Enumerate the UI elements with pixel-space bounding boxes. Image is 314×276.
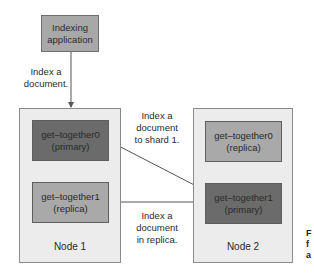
index-in-replica-label: Index a document in replica. [122,210,192,246]
node2-shard0-replica: get–together0 (replica) [205,121,282,162]
node1-shard0-primary: get–together0 (primary) [32,120,109,161]
arrow-primary0-to-primary1 [109,141,204,190]
shard-role: (primary) [225,204,263,216]
label-line: document [136,122,178,134]
indexing-application-box: Indexing application [41,15,99,52]
caption-line: f [306,239,314,250]
label-line: Index a [141,210,172,222]
node-1-label: Node 1 [20,241,120,252]
label-line: document [136,222,178,234]
node2-shard1-primary: get–together1 (primary) [205,183,282,224]
shard-role: (replica) [53,203,87,215]
shard-name: get–together0 [41,129,100,141]
label-line: Index a [141,110,172,122]
caption-line: F [306,228,314,239]
label-line: in replica. [137,234,178,246]
shard-role: (primary) [52,141,90,153]
label-line: to shard 1. [135,134,180,146]
shard-name: get–together1 [41,191,100,203]
app-label-line1: Indexing [52,22,88,34]
node1-shard1-replica: get–together1 (replica) [32,182,109,223]
shard-name: get–together0 [214,130,273,142]
index-to-shard-label: Index a document to shard 1. [122,110,192,146]
caption-line: a [306,250,314,261]
label-line: document. [24,78,68,90]
shard-role: (replica) [226,142,260,154]
figure-caption-fragment: F f a [306,228,314,261]
index-document-label: Index a document. [5,66,87,90]
app-label-line2: application [47,34,92,46]
node-2-label: Node 2 [194,241,292,252]
label-line: Index a [30,66,61,78]
shard-name: get–together1 [214,192,273,204]
